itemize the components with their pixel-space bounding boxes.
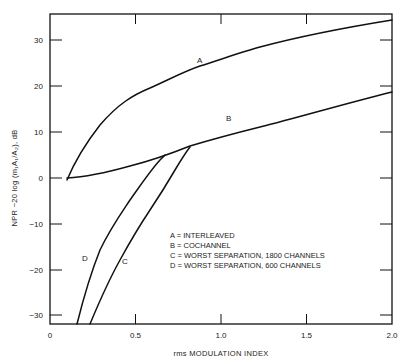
legend-item-a: A = INTERLEAVED	[170, 231, 235, 240]
y-tick-neg20: −20	[29, 266, 43, 275]
curve-label-a: A	[197, 56, 203, 65]
plot-frame	[50, 14, 392, 324]
y-tick-0: 0	[39, 174, 44, 183]
x-tick-0-5: 0.5	[130, 331, 142, 340]
x-tick-1-5: 1.5	[301, 331, 313, 340]
y-tick-30: 30	[34, 36, 43, 45]
y-tick-neg30: −30	[29, 311, 43, 320]
y-axis-ticks	[50, 40, 392, 315]
curve-label-b: B	[226, 114, 231, 123]
y-tick-neg10: −10	[29, 220, 43, 229]
x-axis-ticks	[136, 14, 307, 324]
y-axis-title: NPR −20 log (m₁A₁/A₂), dB	[10, 130, 19, 227]
legend-item-b: B = COCHANNEL	[170, 241, 231, 250]
curve-label-d: D	[82, 254, 88, 263]
y-tick-labels: 30 20 10 0 −10 −20 −30	[29, 36, 43, 320]
y-tick-20: 20	[34, 82, 43, 91]
legend-item-d: D = WORST SEPARATION, 600 CHANNELS	[170, 261, 321, 270]
y-tick-10: 10	[34, 128, 43, 137]
legend: A = INTERLEAVED B = COCHANNEL C = WORST …	[170, 231, 325, 270]
curve-b-cochannel	[67, 92, 392, 178]
legend-item-c: C = WORST SEPARATION, 1800 CHANNELS	[170, 251, 325, 260]
npr-chart: 30 20 10 0 −10 −20 −30 0 0.5 1.0 1.5 2.0…	[0, 0, 407, 363]
curve-a-interleaved	[67, 20, 392, 180]
x-tick-1-0: 1.0	[215, 331, 227, 340]
x-tick-2-0: 2.0	[386, 331, 398, 340]
x-axis-title: rms MODULATION INDEX	[173, 349, 268, 358]
curve-label-c: C	[122, 257, 128, 266]
x-tick-labels: 0 0.5 1.0 1.5 2.0	[48, 331, 398, 340]
x-tick-0: 0	[48, 331, 53, 340]
curve-d-600ch	[77, 155, 165, 324]
